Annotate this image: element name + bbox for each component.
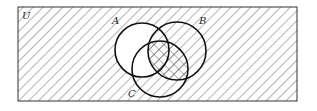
venn-diagram: U A B C (0, 0, 317, 111)
set-b-label: B (198, 15, 206, 26)
universe-label: U (22, 10, 31, 21)
set-a-label: A (111, 15, 119, 26)
set-c-label: C (128, 88, 136, 99)
